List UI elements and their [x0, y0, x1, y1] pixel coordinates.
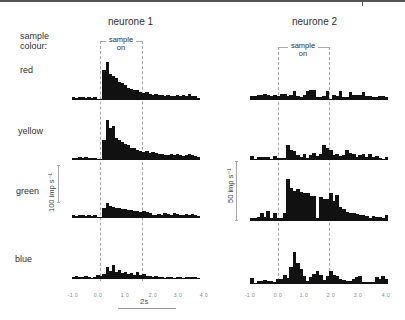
histogram-n2-red	[250, 40, 388, 100]
neurone1-title: neurone 1	[108, 16, 153, 27]
xtick-n1: -1.0	[68, 292, 79, 298]
scale-label-n2: 50 imp s⁻¹	[226, 168, 235, 203]
histogram-n1-red	[72, 40, 200, 100]
histogram-bin	[385, 279, 389, 284]
scale-bar-n1	[58, 165, 59, 203]
xtick-n1: 3.0	[174, 292, 182, 298]
histogram-bin	[266, 157, 270, 160]
row-label-red: red	[20, 65, 33, 75]
xtick-n1: 2.0	[149, 292, 157, 298]
time-scale-label: 2s	[140, 297, 148, 306]
time-scale-bar	[118, 308, 176, 309]
sample-colour-label-line2: colour:	[20, 41, 47, 51]
row-label-yellow: yellow	[18, 126, 43, 136]
histogram-bin	[250, 156, 254, 160]
histogram-bin	[250, 278, 254, 284]
xtick-n2: 3.0	[354, 292, 362, 298]
xtick-n1: 4.0	[200, 292, 208, 298]
histogram-bin	[385, 215, 389, 221]
xtick-n1: 1.0	[121, 292, 129, 298]
row-label-green: green	[16, 186, 39, 196]
histogram-bin	[197, 216, 200, 218]
xtick-n2: 4.0	[382, 292, 390, 298]
xtick-n2: 0.0	[274, 292, 282, 298]
row-label-blue: blue	[15, 254, 32, 264]
neurone2-title: neurone 2	[292, 16, 337, 27]
scale-bar-n2	[236, 161, 237, 221]
histogram-n2-yellow	[250, 100, 388, 160]
xtick-n2: 1.0	[300, 292, 308, 298]
xtick-n1: 0.0	[94, 292, 102, 298]
xtick-n2: 2.0	[327, 292, 335, 298]
histogram-n2-blue	[250, 224, 388, 284]
sample-colour-label-line1: sample	[20, 31, 49, 41]
histogram-n1-green	[72, 158, 200, 218]
histogram-n1-yellow	[72, 100, 200, 160]
page-top-tick	[362, 0, 363, 6]
histogram-n1-blue	[72, 219, 200, 279]
histogram-bin	[385, 157, 389, 160]
xtick-n2: -1.0	[245, 292, 256, 298]
page-top-rule	[0, 0, 405, 2]
histogram-n2-green	[250, 161, 388, 221]
histogram-bin	[197, 278, 200, 279]
scale-label-n1: 100 imp s⁻¹	[47, 173, 56, 212]
